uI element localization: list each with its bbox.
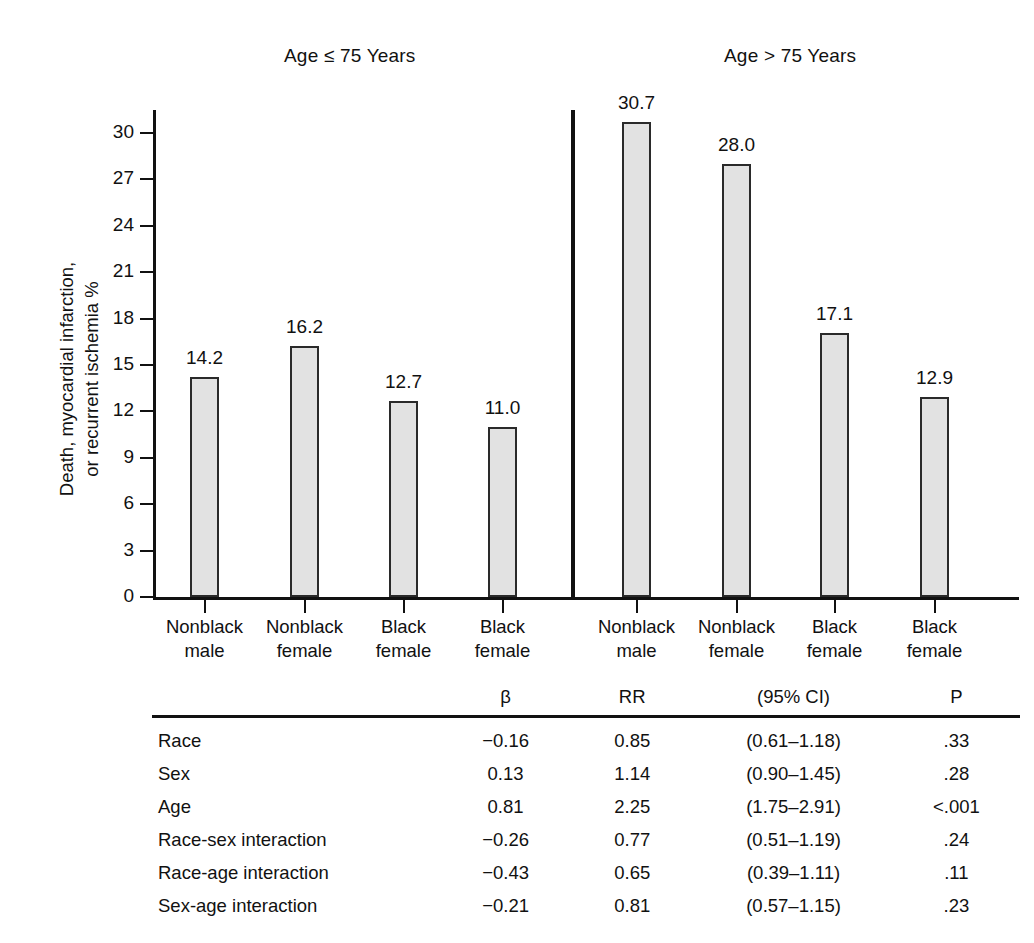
bar-value-label-right-0: 30.7 [597, 92, 677, 114]
table-cell-term: Sex-age interaction [152, 889, 441, 922]
panel-title-age-lte-75: Age ≤ 75 Years [284, 45, 416, 67]
table-cell-term: Race-sex interaction [152, 823, 441, 856]
table-row: Race-sex interaction−0.260.77(0.51–1.19)… [152, 823, 1020, 856]
table-cell-term: Age [152, 790, 441, 823]
table-cell-rr: 1.14 [570, 757, 694, 790]
x-axis-tick-left-0 [204, 600, 206, 613]
y-axis-tick-0 [140, 596, 153, 598]
table-cell-ci: (0.57–1.15) [694, 889, 893, 922]
y-axis-tick-24 [140, 225, 153, 227]
table-cell-beta: 0.13 [441, 757, 570, 790]
x-axis-tick-left-1 [304, 600, 306, 613]
table-cell-rr: 0.65 [570, 856, 694, 889]
y-axis-tick-9 [140, 457, 153, 459]
y-axis-tick-27 [140, 178, 153, 180]
y-axis-tick-label-30: 30 [92, 121, 134, 143]
x-axis-baseline [153, 597, 1019, 600]
y-axis-line [153, 110, 156, 600]
y-axis-tick-label-27: 27 [92, 167, 134, 189]
bar-right-2 [820, 333, 849, 597]
table-cell-p: .28 [893, 757, 1020, 790]
table-cell-ci: (0.39–1.11) [694, 856, 893, 889]
y-axis-tick-21 [140, 271, 153, 273]
category-label-right-3: Black female [860, 615, 1010, 663]
table-header-term [152, 686, 441, 717]
bar-value-label-left-0: 14.2 [165, 347, 245, 369]
table-cell-beta: −0.21 [441, 889, 570, 922]
table-row: Sex0.131.14(0.90–1.45).28 [152, 757, 1020, 790]
y-axis-tick-label-18: 18 [92, 307, 134, 329]
bar-right-0 [622, 122, 651, 597]
table-cell-rr: 0.77 [570, 823, 694, 856]
bar-left-2 [389, 401, 418, 597]
table-row: Race-age interaction−0.430.65(0.39–1.11)… [152, 856, 1020, 889]
bar-left-1 [290, 346, 319, 597]
panel-separator-line [571, 110, 575, 600]
bar-value-label-right-3: 12.9 [895, 367, 975, 389]
bar-right-1 [722, 164, 751, 597]
x-axis-tick-left-3 [502, 600, 504, 613]
bar-value-label-right-1: 28.0 [697, 134, 777, 156]
table-body: Race−0.160.85(0.61–1.18).33Sex0.131.14(0… [152, 717, 1020, 923]
bar-value-label-right-2: 17.1 [795, 303, 875, 325]
table-cell-p: .33 [893, 717, 1020, 758]
y-axis-tick-3 [140, 550, 153, 552]
y-axis-tick-label-0: 0 [92, 585, 134, 607]
category-label-left-3: Black female [428, 615, 578, 663]
y-axis-tick-15 [140, 364, 153, 366]
x-axis-tick-right-2 [834, 600, 836, 613]
table-row: Sex-age interaction−0.210.81(0.57–1.15).… [152, 889, 1020, 922]
table-cell-rr: 2.25 [570, 790, 694, 823]
y-axis-tick-label-24: 24 [92, 214, 134, 236]
table-cell-ci: (0.90–1.45) [694, 757, 893, 790]
table-cell-rr: 0.85 [570, 717, 694, 758]
table-cell-p: .11 [893, 856, 1020, 889]
table-cell-p: .24 [893, 823, 1020, 856]
table-header-ci: (95% CI) [694, 686, 893, 717]
table-cell-beta: 0.81 [441, 790, 570, 823]
y-axis-tick-label-3: 3 [92, 539, 134, 561]
y-axis-tick-6 [140, 503, 153, 505]
bar-left-0 [190, 377, 219, 597]
y-axis-tick-18 [140, 318, 153, 320]
y-axis-tick-30 [140, 132, 153, 134]
y-axis-tick-label-15: 15 [92, 353, 134, 375]
figure-root: Age ≤ 75 Years Age > 75 Years Death, myo… [0, 0, 1034, 943]
panel-title-age-gt-75: Age > 75 Years [724, 45, 856, 67]
table-cell-ci: (0.51–1.19) [694, 823, 893, 856]
bar-left-3 [488, 427, 517, 597]
table-cell-beta: −0.26 [441, 823, 570, 856]
table-cell-beta: −0.16 [441, 717, 570, 758]
table-cell-p: <.001 [893, 790, 1020, 823]
table-cell-term: Race [152, 717, 441, 758]
table-header-row: β RR (95% CI) P [152, 686, 1020, 717]
bar-value-label-left-2: 12.7 [364, 371, 444, 393]
table-cell-beta: −0.43 [441, 856, 570, 889]
bar-value-label-left-1: 16.2 [265, 316, 345, 338]
y-axis-tick-label-6: 6 [92, 492, 134, 514]
x-axis-tick-right-0 [636, 600, 638, 613]
table-row: Age0.812.25(1.75–2.91)<.001 [152, 790, 1020, 823]
x-axis-tick-right-1 [736, 600, 738, 613]
table-cell-ci: (1.75–2.91) [694, 790, 893, 823]
bar-value-label-left-3: 11.0 [463, 397, 543, 419]
x-axis-tick-left-2 [403, 600, 405, 613]
y-axis-tick-12 [140, 410, 153, 412]
y-axis-tick-label-9: 9 [92, 446, 134, 468]
table-header-beta: β [441, 686, 570, 717]
table-row: Race−0.160.85(0.61–1.18).33 [152, 717, 1020, 758]
table-header-rr: RR [570, 686, 694, 717]
table-header-p: P [893, 686, 1020, 717]
y-axis-tick-label-12: 12 [92, 399, 134, 421]
x-axis-tick-right-3 [934, 600, 936, 613]
table-cell-rr: 0.81 [570, 889, 694, 922]
bar-right-3 [920, 397, 949, 597]
table-cell-term: Race-age interaction [152, 856, 441, 889]
y-axis-tick-label-21: 21 [92, 260, 134, 282]
regression-statistics-table: β RR (95% CI) P Race−0.160.85(0.61–1.18)… [152, 686, 1020, 922]
table-cell-ci: (0.61–1.18) [694, 717, 893, 758]
table-cell-term: Sex [152, 757, 441, 790]
table-cell-p: .23 [893, 889, 1020, 922]
